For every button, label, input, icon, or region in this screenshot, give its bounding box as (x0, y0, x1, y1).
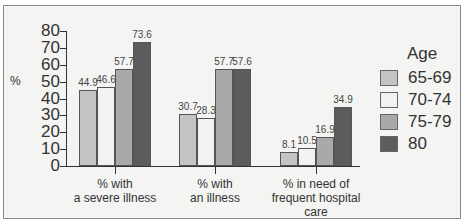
bar (316, 137, 334, 166)
y-tick-label: 40 (30, 90, 60, 107)
y-tick-mark (60, 115, 66, 116)
y-tick-mark (60, 132, 66, 133)
legend-label: 80 (408, 134, 427, 154)
y-tick-label: 10 (30, 140, 60, 157)
bar (298, 148, 316, 166)
y-tick-mark (60, 149, 66, 150)
y-tick-mark (60, 48, 66, 49)
legend-item: 80 (380, 133, 451, 155)
legend-swatch (380, 136, 398, 152)
bar (215, 69, 233, 166)
legend-swatch (380, 70, 398, 86)
y-tick-label: 80 (30, 22, 60, 39)
y-tick-label: 20 (30, 123, 60, 140)
bar-value-label: 34.9 (328, 94, 358, 105)
y-tick-mark (60, 166, 66, 167)
legend-label: 65-69 (408, 68, 451, 88)
category-tick (215, 166, 216, 174)
bar-value-label: 73.6 (127, 29, 157, 40)
bar (197, 118, 215, 166)
legend-label: 75-79 (408, 112, 451, 132)
y-tick-label: 30 (30, 106, 60, 123)
legend-item: 70-74 (380, 89, 451, 111)
category-tick (115, 166, 116, 174)
bar (233, 69, 251, 166)
bar-value-label: 57.6 (227, 56, 257, 67)
bar (334, 107, 352, 166)
y-tick-label: 70 (30, 39, 60, 56)
category-label: % in need offrequent hospitalcare (251, 177, 381, 219)
bar-chart: % 01020304050607080 44.930.78.146.628.31… (0, 0, 464, 223)
y-axis (66, 31, 67, 166)
y-tick-label: 50 (30, 73, 60, 90)
bar (179, 114, 197, 166)
y-tick-mark (60, 82, 66, 83)
legend-item: 65-69 (380, 67, 451, 89)
legend-label: 70-74 (408, 90, 451, 110)
category-tick (316, 166, 317, 174)
y-tick-label: 60 (30, 56, 60, 73)
legend-item: 75-79 (380, 111, 451, 133)
legend-title: Age (407, 44, 451, 64)
y-axis-label: % (10, 74, 21, 88)
y-tick-mark (60, 99, 66, 100)
legend-swatch (380, 114, 398, 130)
legend: Age 65-6970-7475-7980 (380, 44, 451, 155)
bar (133, 42, 151, 166)
y-tick-label: 0 (30, 157, 60, 174)
y-tick-mark (60, 65, 66, 66)
legend-swatch (380, 92, 398, 108)
bar (79, 90, 97, 166)
bar (115, 69, 133, 166)
y-tick-mark (60, 31, 66, 32)
bar (97, 87, 115, 166)
bar (280, 152, 298, 166)
